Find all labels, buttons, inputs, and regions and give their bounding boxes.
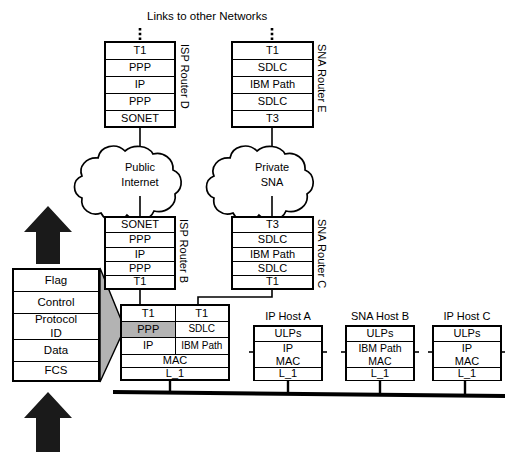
router-c-layer-1: SDLC xyxy=(233,233,312,248)
router-c-layer-3: SDLC xyxy=(233,262,312,276)
ip-host-c-stack[interactable]: ULPs IP MAC L_1 xyxy=(432,325,502,381)
frame-field-protocol-id: Protocol ID xyxy=(14,314,98,340)
combined-left-0: T1 xyxy=(122,306,175,322)
sna-host-b-lower: MAC xyxy=(368,355,391,367)
frame-up-arrow-top xyxy=(24,206,72,264)
ip-host-a-caption: IP Host A xyxy=(246,310,330,322)
cloud-line-2: SNA xyxy=(237,175,307,190)
protocol-id-line-2: ID xyxy=(50,327,62,340)
ip-host-a-upper: IP xyxy=(283,342,293,355)
combined-left-2: IP xyxy=(122,338,175,354)
ip-host-c-upper: IP xyxy=(462,342,472,355)
ip-host-c-lower: MAC xyxy=(455,355,479,368)
router-e-layer-4: T3 xyxy=(233,111,312,126)
frame-field-flag: Flag xyxy=(14,270,98,292)
router-d-layer-2: IP xyxy=(106,77,174,94)
ip-host-a-lower: MAC xyxy=(276,355,300,368)
diagram-title: Links to other Networks xyxy=(147,10,267,22)
router-e-layer-1: SDLC xyxy=(233,60,312,77)
sna-host-b-l1: L_1 xyxy=(347,368,413,380)
link-router-c-to-combined xyxy=(198,290,272,304)
cloud-line-1: Public xyxy=(105,160,175,175)
combined-right-0: T1 xyxy=(176,306,229,322)
sna-host-b-upper: IBM Path xyxy=(358,342,401,354)
router-e-layer-3: SDLC xyxy=(233,94,312,111)
router-b-layer-0: SONET xyxy=(106,218,174,233)
protocol-id-line-1: Protocol xyxy=(35,313,77,326)
network-diagram-canvas: Links to other Networks Public Internet … xyxy=(0,0,513,456)
cloud-line-1: Private xyxy=(237,160,307,175)
sna-host-b-stack[interactable]: ULPs IBM Path MAC L_1 xyxy=(345,325,415,381)
router-b-label: ISP Router B xyxy=(178,219,190,283)
router-c-layer-4: T1 xyxy=(233,276,312,288)
public-internet-label: Public Internet xyxy=(105,160,175,190)
sna-host-b-ulps: ULPs xyxy=(347,327,413,342)
sna-host-b-path-mac: IBM Path MAC xyxy=(347,342,413,368)
frame-field-fcs: FCS xyxy=(14,362,98,379)
combined-left-1-highlighted: PPP xyxy=(122,322,175,338)
combined-left-column: T1 PPP IP xyxy=(122,306,176,354)
router-e-layer-0: T1 xyxy=(233,43,312,60)
combined-router-stack[interactable]: T1 PPP IP T1 SDLC IBM Path MAC L_1 xyxy=(120,304,230,381)
cloud-line-2: Internet xyxy=(105,175,175,190)
ip-host-a-ip-mac: IP MAC xyxy=(255,342,321,368)
combined-columns: T1 PPP IP T1 SDLC IBM Path xyxy=(122,306,228,354)
router-d-layer-3: PPP xyxy=(106,94,174,111)
router-b-layer-2: IP xyxy=(106,248,174,262)
router-d-layer-0: T1 xyxy=(106,43,174,60)
router-e-stack[interactable]: T1 SDLC IBM Path SDLC T3 xyxy=(231,41,314,128)
router-c-layer-0: T3 xyxy=(233,218,312,233)
router-c-stack[interactable]: T3 SDLC IBM Path SDLC T1 xyxy=(231,216,314,290)
router-e-label: SNA Router E xyxy=(316,44,328,112)
router-c-label: SNA Router C xyxy=(316,219,328,288)
frame-field-data: Data xyxy=(14,340,98,362)
frame-field-control: Control xyxy=(14,292,98,314)
private-sna-label: Private SNA xyxy=(237,160,307,190)
router-b-layer-3: PPP xyxy=(106,262,174,276)
router-c-layer-2: IBM Path xyxy=(233,248,312,262)
combined-shared-l1: L_1 xyxy=(122,368,228,380)
ip-host-a-stack[interactable]: ULPs IP MAC L_1 xyxy=(253,325,323,381)
ip-host-a-ulps: ULPs xyxy=(255,327,321,342)
ip-host-a-l1: L_1 xyxy=(255,368,321,380)
ip-host-c-l1: L_1 xyxy=(434,368,500,380)
sna-host-b-caption: SNA Host B xyxy=(338,310,422,322)
ppp-frame-box[interactable]: Flag Control Protocol ID Data FCS xyxy=(12,268,100,382)
lan-bus-line xyxy=(113,392,505,396)
combined-right-column: T1 SDLC IBM Path xyxy=(176,306,229,354)
frame-up-arrow-bottom xyxy=(24,392,72,452)
ip-host-c-ulps: ULPs xyxy=(434,327,500,342)
router-d-stack[interactable]: T1 PPP IP PPP SONET xyxy=(104,41,176,128)
router-e-layer-2: IBM Path xyxy=(233,77,312,94)
router-d-layer-4: SONET xyxy=(106,111,174,126)
ip-host-c-caption: IP Host C xyxy=(425,310,509,322)
router-b-stack[interactable]: SONET PPP IP PPP T1 xyxy=(104,216,176,290)
combined-right-1: SDLC xyxy=(176,322,229,338)
router-d-layer-1: PPP xyxy=(106,60,174,77)
combined-right-2: IBM Path xyxy=(176,338,229,354)
combined-shared-mac: MAC xyxy=(122,354,228,368)
ip-host-c-ip-mac: IP MAC xyxy=(434,342,500,368)
router-b-layer-4: T1 xyxy=(106,276,174,288)
router-d-label: ISP Router D xyxy=(179,44,191,109)
router-b-layer-1: PPP xyxy=(106,233,174,248)
